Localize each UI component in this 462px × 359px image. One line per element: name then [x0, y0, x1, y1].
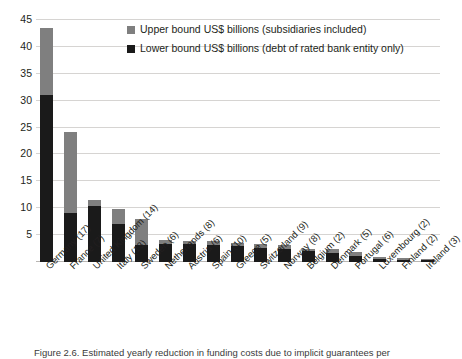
y-axis-tick-label: 40 — [20, 41, 32, 52]
y-axis-tick-label: 35 — [20, 68, 32, 79]
legend-swatch-lower-bound-icon — [127, 45, 135, 53]
category-axis-labels: Germany (17)France (7)United Kingdom (14… — [36, 264, 440, 344]
legend-swatch-upper-bound-icon — [127, 26, 135, 34]
bar-segment-lower-bound — [40, 95, 53, 262]
chart-legend: Upper bound US$ billions (subsidiaries i… — [127, 21, 443, 59]
legend-item-lower-bound: Lower bound US$ billions (debt of rated … — [127, 40, 443, 57]
y-axis-tick-label: 45 — [20, 14, 32, 25]
y-axis-tick-label: 30 — [20, 94, 32, 105]
y-axis-tick-label: 15 — [20, 175, 32, 186]
bar-group — [40, 28, 53, 262]
legend-label-upper-bound: Upper bound US$ billions (subsidiaries i… — [140, 24, 366, 35]
legend-item-upper-bound: Upper bound US$ billions (subsidiaries i… — [127, 21, 443, 38]
y-axis-tick-label: 5 — [26, 229, 32, 240]
y-axis-tick-label: 10 — [20, 202, 32, 213]
y-axis-tick-label: 20 — [20, 148, 32, 159]
figure-caption: Figure 2.6. Estimated yearly reduction i… — [34, 347, 444, 359]
y-axis-tick-label: 25 — [20, 121, 32, 132]
legend-label-lower-bound: Lower bound US$ billions (debt of rated … — [140, 43, 404, 54]
